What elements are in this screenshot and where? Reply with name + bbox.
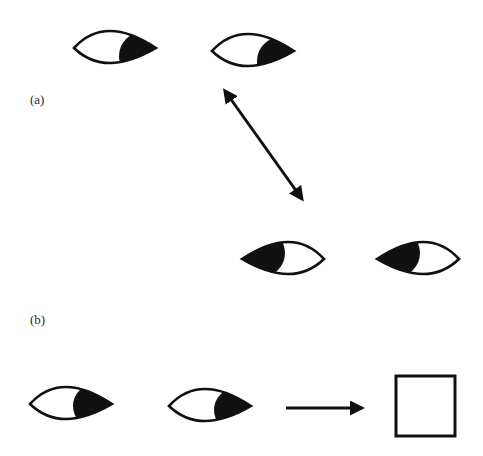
eye-icon bbox=[74, 31, 167, 80]
eye-icon bbox=[30, 384, 117, 428]
eye-icon bbox=[372, 229, 459, 277]
eye-icon bbox=[169, 388, 258, 432]
square-shape bbox=[396, 376, 455, 436]
eye-icon bbox=[237, 229, 324, 277]
eye-icon bbox=[212, 34, 305, 85]
diagram-canvas bbox=[0, 0, 483, 456]
figure: (a) (b) bbox=[0, 0, 483, 456]
double-arrow-icon bbox=[230, 98, 302, 199]
